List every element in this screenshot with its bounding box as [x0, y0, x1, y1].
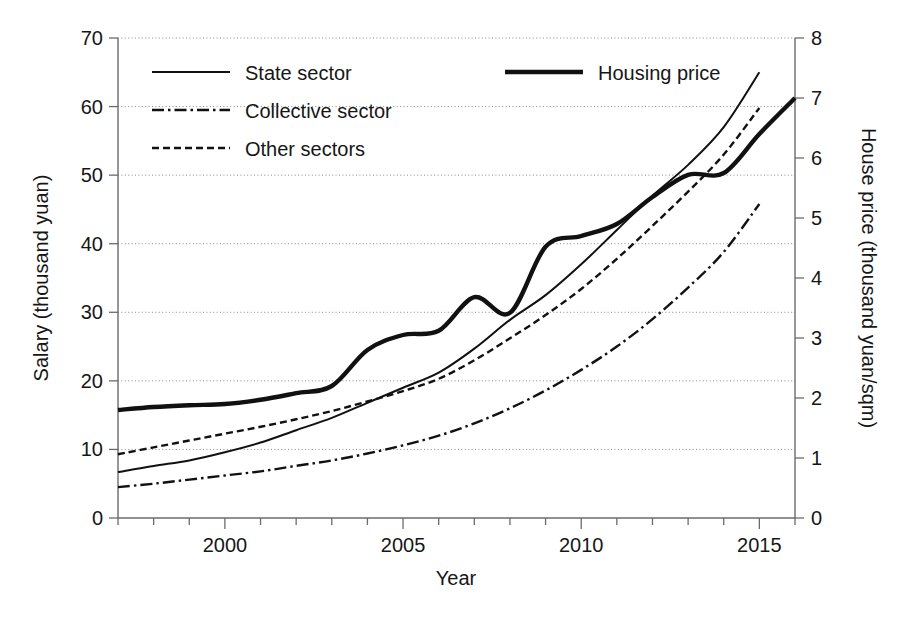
y-axis-right-tick-label: 1: [811, 447, 822, 469]
y-axis-left-tick-label: 50: [81, 164, 103, 186]
x-axis-tick-label: 2015: [737, 534, 782, 556]
y-axis-left-title: Salary (thousand yuan): [30, 175, 52, 382]
x-axis-tick-label: 2005: [381, 534, 426, 556]
y-axis-right-tick-labels: 012345678: [811, 27, 822, 529]
y-axis-right-tick-label: 2: [811, 387, 822, 409]
y-axis-left-tick-label: 60: [81, 96, 103, 118]
y-axis-right-title: House price (thousand yuan/sqm): [858, 128, 880, 428]
chart-figure: 010203040506070 012345678 20002005201020…: [0, 0, 905, 617]
y-axis-right-tick-label: 7: [811, 87, 822, 109]
legend-label: Housing price: [598, 62, 720, 84]
x-axis-tick-label: 2010: [559, 534, 604, 556]
x-axis-title: Year: [436, 567, 477, 589]
legend-label: Other sectors: [245, 138, 365, 160]
y-axis-left-tick-label: 10: [81, 438, 103, 460]
legend-label: Collective sector: [245, 100, 392, 122]
y-axis-left-tick-label: 70: [81, 27, 103, 49]
y-axis-left-tick-label: 40: [81, 233, 103, 255]
y-axis-right-tick-label: 6: [811, 147, 822, 169]
y-axis-left-tick-label: 0: [92, 507, 103, 529]
y-axis-right-tick-label: 0: [811, 507, 822, 529]
y-axis-right-tick-label: 5: [811, 207, 822, 229]
chart-canvas: 010203040506070 012345678 20002005201020…: [0, 0, 905, 617]
chart-background: [0, 0, 905, 617]
y-axis-left-tick-label: 20: [81, 370, 103, 392]
legend-label: State sector: [245, 62, 352, 84]
y-axis-right-tick-label: 8: [811, 27, 822, 49]
y-axis-right-tick-label: 4: [811, 267, 822, 289]
y-axis-left-tick-label: 30: [81, 301, 103, 323]
y-axis-right-tick-label: 3: [811, 327, 822, 349]
x-axis-tick-label: 2000: [203, 534, 248, 556]
